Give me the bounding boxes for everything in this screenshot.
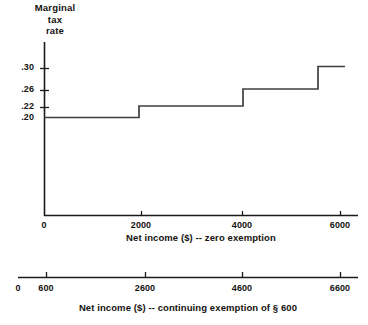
chart-svg	[0, 0, 368, 325]
figure-container: Marginal tax rate .30 .26 .22 .20 0 2000…	[0, 0, 368, 325]
step-function-line	[44, 67, 345, 118]
